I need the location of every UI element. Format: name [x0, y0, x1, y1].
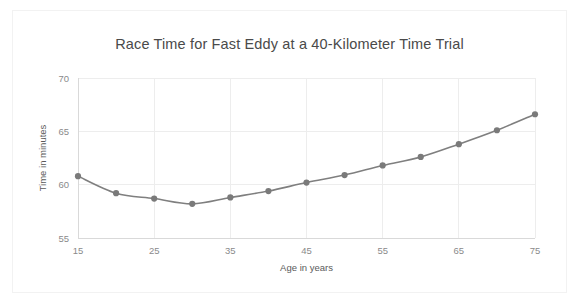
x-tick-label-25: 25 [149, 245, 160, 256]
y-axis-title: Time in minutes [37, 124, 48, 191]
data-point-age-30 [189, 201, 195, 207]
line-chart-plot: 55606570 15253545556575 Time in minutes … [0, 0, 579, 303]
data-point-age-60 [418, 154, 424, 160]
x-gridlines [78, 78, 535, 238]
data-point-age-40 [265, 188, 271, 194]
data-point-age-45 [303, 179, 309, 185]
data-point-age-35 [227, 194, 233, 200]
y-tick-label-55: 55 [58, 233, 69, 244]
x-tick-label-65: 65 [454, 245, 465, 256]
y-tick-label-65: 65 [58, 126, 69, 137]
y-tick-label-70: 70 [58, 73, 69, 84]
data-point-age-20 [113, 190, 119, 196]
data-point-age-15 [75, 173, 81, 179]
x-tick-label-75: 75 [530, 245, 541, 256]
data-point-age-75 [532, 111, 538, 117]
data-point-age-65 [456, 141, 462, 147]
x-tick-label-35: 35 [225, 245, 236, 256]
data-point-age-50 [341, 172, 347, 178]
data-point-age-25 [151, 195, 157, 201]
x-tick-labels: 15253545556575 [73, 245, 541, 256]
data-point-age-70 [494, 127, 500, 133]
chart-figure: Race Time for Fast Eddy at a 40-Kilomete… [0, 0, 579, 303]
x-tick-label-45: 45 [301, 245, 312, 256]
data-point-age-55 [380, 162, 386, 168]
x-tick-label-15: 15 [73, 245, 84, 256]
x-axis-title: Age in years [280, 262, 333, 273]
x-tick-label-55: 55 [377, 245, 388, 256]
y-tick-label-60: 60 [58, 179, 69, 190]
y-tick-labels: 55606570 [58, 73, 69, 244]
